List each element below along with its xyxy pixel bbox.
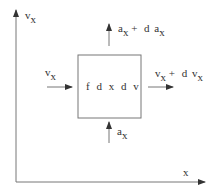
left-inflow-base: v <box>45 66 51 78</box>
top-outflow-label: ax + d ax <box>118 23 165 34</box>
right-outflow-base: v <box>155 67 161 79</box>
box-label: f d x d v <box>86 81 141 92</box>
y-label-sub: x <box>31 13 37 25</box>
left-inflow-label: vx <box>45 67 56 78</box>
right-outflow-label: vx + d vx <box>155 68 203 79</box>
right-outflow-sub2: x <box>197 71 203 83</box>
top-outflow-sub2: x <box>159 26 165 38</box>
right-outflow-plus: + d <box>169 67 189 79</box>
top-outflow-sub: x <box>123 26 129 38</box>
x-axis-label: x <box>183 167 189 178</box>
bottom-inflow-label: ax <box>117 126 127 137</box>
top-outflow-plus: + d <box>131 22 151 34</box>
y-axis-label: vx <box>25 10 36 21</box>
diagram-canvas <box>0 0 218 192</box>
y-label-base: v <box>25 9 31 21</box>
left-inflow-sub: x <box>51 70 57 82</box>
right-outflow-sub: x <box>161 71 167 83</box>
bottom-inflow-sub: x <box>122 129 128 141</box>
